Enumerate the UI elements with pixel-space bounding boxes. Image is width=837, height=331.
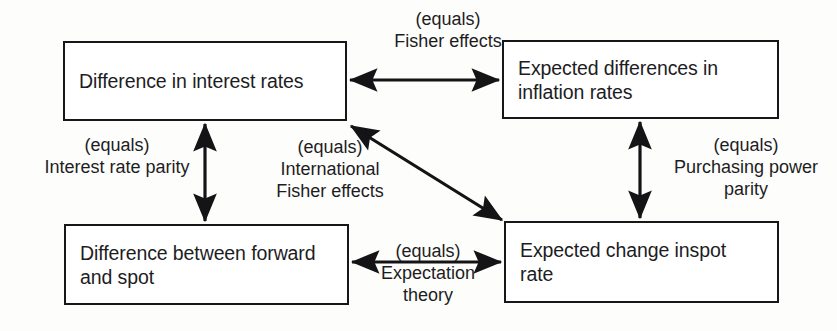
edge-label-fisher-effects: (equals) Fisher effects (358, 8, 538, 52)
node-label: Expected change inspot rate (520, 238, 726, 286)
edge-label-purchasing-power-parity: (equals) Purchasing power parity (655, 134, 837, 200)
node-label: Expected differences in inflation rates (518, 56, 718, 104)
node-expected-spot-change[interactable]: Expected change inspot rate (504, 221, 779, 303)
node-label: Difference in interest rates (79, 69, 303, 93)
node-expected-inflation-difference[interactable]: Expected differences in inflation rates (502, 40, 779, 119)
edge-label-interest-rate-parity: (equals) Interest rate parity (28, 134, 206, 178)
edge-label-expectation-theory: (equals) Expectation theory (369, 240, 487, 306)
node-label: Difference between forward and spot (80, 241, 316, 289)
node-interest-rate-difference[interactable]: Difference in interest rates (63, 41, 347, 121)
edge-label-international-fisher-effects: (equals) International Fisher effects (244, 136, 416, 202)
node-forward-spot-difference[interactable]: Difference between forward and spot (64, 224, 349, 305)
diagram-canvas: Difference in interest rates Expected di… (0, 0, 837, 331)
